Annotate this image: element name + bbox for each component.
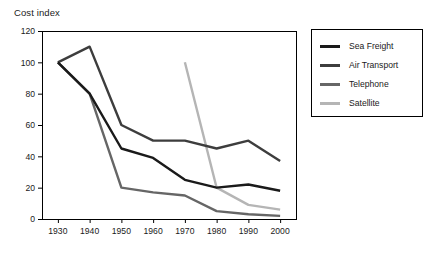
series-line (58, 62, 280, 216)
x-axis-tick-label: 1940 (80, 226, 99, 236)
series-lines-group (58, 47, 280, 216)
legend-item-label: Air Transport (349, 61, 398, 70)
series-line (58, 47, 280, 161)
y-axis-tick-label: 80 (25, 89, 35, 99)
x-axis-ticks: 19301940195019601970198019902000 (48, 219, 290, 236)
x-axis-tick-label: 1960 (144, 226, 163, 236)
y-axis-tick-label: 20 (25, 183, 35, 193)
legend-item: Telephone (312, 75, 422, 94)
x-axis-tick-label: 2000 (271, 226, 290, 236)
legend-item-label: Satellite (349, 99, 380, 108)
legend-color-swatch (320, 45, 340, 48)
legend-item-list: Sea FreightAir TransportTelephoneSatelli… (312, 30, 422, 116)
legend-item: Air Transport (312, 56, 422, 75)
x-axis-tick-label: 1970 (175, 226, 194, 236)
x-axis-tick-label: 1950 (112, 226, 131, 236)
legend-item-label: Sea Freight (349, 42, 393, 51)
legend-item: Sea Freight (312, 37, 422, 56)
legend-color-swatch (320, 64, 340, 67)
plot-frame (43, 32, 297, 220)
chart-legend: Sea FreightAir TransportTelephoneSatelli… (311, 29, 423, 117)
y-axis-tick-label: 0 (30, 214, 35, 224)
x-axis-tick-label: 1980 (207, 226, 226, 236)
legend-item-label: Telephone (349, 80, 389, 89)
y-axis-tick-label: 100 (21, 58, 36, 68)
x-axis-tick-label: 1990 (239, 226, 258, 236)
chart-figure: Cost index 020406080100120 1930194019501… (0, 0, 433, 256)
series-line (58, 62, 280, 190)
y-axis-tick-label: 60 (25, 120, 35, 130)
legend-item: Satellite (312, 94, 422, 113)
y-axis-ticks: 020406080100120 (21, 26, 42, 224)
y-axis-tick-label: 40 (25, 152, 35, 162)
legend-color-swatch (320, 83, 340, 86)
y-axis-tick-label: 120 (21, 26, 36, 36)
x-axis-tick-label: 1930 (48, 226, 67, 236)
legend-color-swatch (320, 102, 340, 105)
